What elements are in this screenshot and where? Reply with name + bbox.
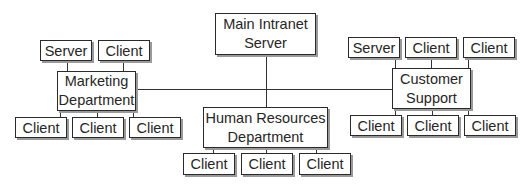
main-server-label-line2: Server (223, 34, 308, 53)
connector (431, 58, 432, 68)
node-label: Client (22, 119, 59, 137)
connector (67, 61, 68, 71)
node-label: Server (353, 39, 396, 57)
node-label: Client (136, 119, 173, 137)
node-label: Client (471, 117, 508, 135)
connector (123, 61, 124, 71)
marketing-department-node: Marketing Department (57, 71, 136, 111)
intranet-diagram: Main Intranet Server Server Client Marke… (0, 0, 530, 185)
main-intranet-server-node: Main Intranet Server (215, 13, 316, 55)
hr-client-node: Client (183, 153, 235, 175)
marketing-server-node: Server (40, 40, 92, 61)
node-label: Client (470, 39, 507, 57)
marketing-client-node: Client (72, 117, 124, 138)
node-label: Client (105, 42, 142, 60)
customer-support-node: Customer Support (392, 68, 471, 109)
node-label: Client (248, 155, 285, 173)
connector (468, 58, 469, 68)
node-label: Client (414, 117, 451, 135)
main-server-vertical-line (266, 55, 267, 107)
support-client-node: Client (463, 37, 515, 58)
hr-department-node: Human Resources Department (203, 107, 328, 148)
marketing-client-node: Client (129, 117, 181, 138)
main-server-label-line1: Main Intranet (223, 15, 308, 34)
support-client-node: Client (407, 115, 459, 136)
support-label-line2: Support (400, 89, 463, 108)
backbone-horizontal-line (136, 89, 392, 90)
support-server-node: Server (348, 37, 400, 58)
node-label: Server (45, 42, 88, 60)
node-label: Client (79, 119, 116, 137)
node-label: Client (306, 155, 343, 173)
hr-client-node: Client (299, 153, 351, 175)
connector (395, 58, 396, 68)
node-label: Client (357, 117, 394, 135)
hr-client-node: Client (241, 153, 293, 175)
support-label-line1: Customer (400, 70, 463, 89)
marketing-label-line2: Department (59, 91, 135, 110)
marketing-label-line1: Marketing (59, 72, 135, 91)
marketing-client-node: Client (15, 117, 67, 138)
support-client-node: Client (405, 37, 457, 58)
node-label: Client (412, 39, 449, 57)
node-label: Client (190, 155, 227, 173)
marketing-client-node: Client (98, 40, 150, 61)
hr-label-line1: Human Resources (205, 109, 325, 128)
hr-label-line2: Department (205, 128, 325, 147)
support-client-node: Client (464, 115, 516, 136)
support-client-node: Client (350, 115, 402, 136)
